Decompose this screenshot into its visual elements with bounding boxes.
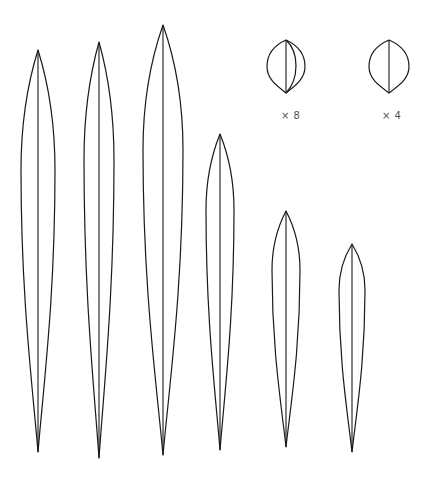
magnified-detail: [369, 40, 409, 93]
leaf: [21, 50, 55, 452]
leaf: [272, 211, 300, 447]
detail-inner-curve: [286, 40, 296, 93]
leaf: [339, 244, 365, 452]
leaf-group: [21, 25, 365, 458]
leaf: [206, 134, 234, 450]
magnified-detail: [267, 40, 305, 93]
leaf: [84, 42, 114, 458]
leaf: [143, 25, 183, 455]
magnification-label-x4: × 4: [382, 110, 401, 121]
botanical-figure: [0, 0, 430, 488]
magnified-detail-group: [267, 40, 409, 93]
magnification-label-x8: × 8: [281, 110, 300, 121]
